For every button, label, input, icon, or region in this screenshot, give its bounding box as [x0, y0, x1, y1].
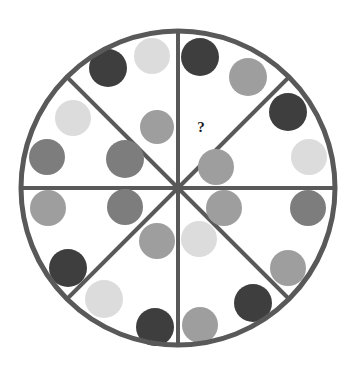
dot-marker [55, 100, 91, 136]
dot-marker [270, 250, 306, 286]
dot-marker [181, 38, 219, 76]
dot-marker [290, 190, 326, 226]
segmented-circle-figure: ? [0, 0, 355, 377]
dot-marker [134, 38, 170, 74]
dot-marker [198, 149, 234, 185]
dot-marker [85, 280, 123, 318]
dot-marker [107, 189, 143, 225]
dot-marker [106, 140, 144, 178]
dot-marker [269, 93, 307, 131]
dot-marker [181, 221, 217, 257]
dot-marker [291, 139, 327, 175]
dot-marker [182, 307, 218, 343]
question-mark-label: ? [197, 119, 205, 135]
dot-marker [29, 139, 65, 175]
dot-marker [139, 223, 175, 259]
dot-marker [30, 190, 66, 226]
dot-marker [206, 190, 242, 226]
puzzle-canvas: ? [0, 0, 355, 377]
dot-marker [229, 58, 267, 96]
dot-marker [140, 110, 174, 144]
